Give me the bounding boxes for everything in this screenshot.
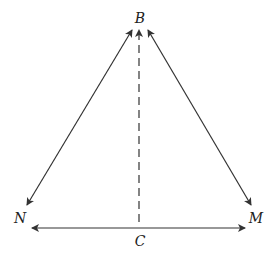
label-c: C — [135, 233, 146, 249]
diagram-canvas — [0, 0, 272, 257]
line-bn — [27, 30, 132, 205]
label-n: N — [14, 210, 26, 226]
line-bm — [148, 30, 251, 205]
label-m: M — [249, 210, 263, 226]
label-b: B — [135, 10, 145, 26]
